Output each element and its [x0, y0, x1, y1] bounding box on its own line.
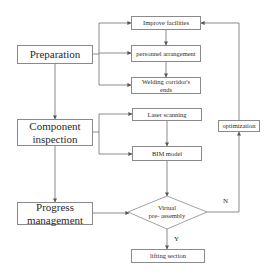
progress-management-label: Progress management [18, 201, 92, 225]
optimization-box: optimization [218, 120, 260, 132]
welding-corridor-label: Welding corridor's ends [138, 78, 194, 92]
bim-model-label: BIM model [152, 150, 182, 157]
lifting-section-label: lifting section [150, 252, 186, 259]
personnel-arrangement-box: personnel arrangement [131, 45, 201, 62]
laser-scanning-box: Laser scanning [132, 108, 202, 121]
preparation-label: Preparation [30, 48, 81, 60]
welding-corridor-box: Welding corridor's ends [131, 77, 201, 94]
component-inspection-label: Component inspection [18, 120, 92, 144]
no-label: N [223, 197, 228, 205]
optimization-label: optimization [223, 122, 256, 129]
decision-label: Virtual pre- assembly [137, 204, 197, 220]
decision-label-line1: Virtual [137, 204, 197, 212]
decision-label-line2: pre- assembly [137, 212, 197, 220]
lifting-section-box: lifting section [131, 249, 205, 263]
preparation-box: Preparation [17, 45, 93, 64]
personnel-arrangement-label: personnel arrangement [136, 50, 195, 57]
laser-scanning-label: Laser scanning [147, 111, 186, 118]
component-inspection-box: Component inspection [17, 119, 93, 146]
yes-label: Y [174, 235, 179, 243]
improve-facilities-label: Improve facilities [143, 19, 189, 26]
bim-model-box: BIM model [132, 146, 202, 161]
progress-management-box: Progress management [17, 202, 93, 225]
improve-facilities-box: Improve facilities [131, 16, 201, 30]
